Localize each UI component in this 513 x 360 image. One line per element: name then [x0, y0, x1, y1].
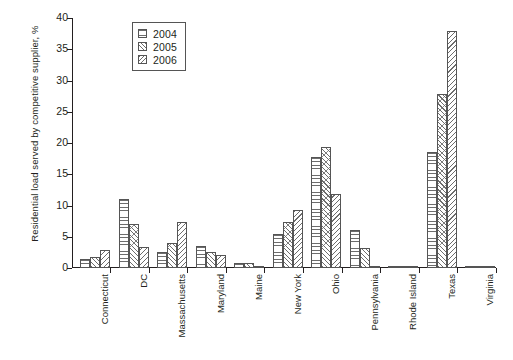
bar-2005 [244, 263, 254, 268]
x-label-ohio: Ohio [330, 274, 341, 294]
y-tick-label: 40 [56, 11, 68, 23]
bar-2004 [80, 259, 90, 268]
x-tick-mark [149, 268, 150, 273]
swatch-horizontal-lines-icon [138, 29, 147, 38]
y-axis-title: Residential load served by competitive s… [29, 0, 40, 274]
bar-2005 [475, 266, 485, 268]
y-tick-label: 15 [56, 167, 68, 179]
bar-group [234, 18, 264, 268]
bar-2004 [350, 230, 360, 268]
y-tick-label: 30 [56, 74, 68, 86]
bar-2004 [157, 252, 167, 268]
x-tick-mark [226, 268, 227, 273]
bar-2006 [177, 222, 187, 268]
bar-group [311, 18, 341, 268]
y-tick-label: 0 [62, 261, 68, 273]
legend-item-2004[interactable]: 2004 [138, 27, 177, 40]
bar-group [80, 18, 110, 268]
x-label-massachusetts: Massachusetts [176, 274, 187, 337]
x-label-virginia: Virginia [484, 274, 495, 306]
bar-group [388, 18, 418, 268]
swatch-diagonal-hatch-icon [138, 55, 147, 64]
legend-item-2005[interactable]: 2005 [138, 40, 177, 53]
x-tick-mark [342, 268, 343, 273]
legend-label: 2005 [153, 41, 177, 53]
bar-2004 [119, 199, 129, 268]
bar-2006 [100, 250, 110, 268]
legend-label: 2004 [153, 28, 177, 40]
bar-2004 [465, 266, 475, 268]
bar-2005 [167, 243, 177, 268]
bar-2005 [129, 224, 139, 268]
bar-2006 [408, 266, 418, 268]
bar-2004 [427, 152, 437, 268]
bar-group [427, 18, 457, 268]
bar-2005 [360, 248, 370, 268]
bar-2006 [331, 194, 341, 268]
x-label-connecticut: Connecticut [99, 274, 110, 324]
bar-2006 [485, 266, 495, 268]
x-tick-mark [457, 268, 458, 273]
bar-2006 [293, 210, 303, 268]
bar-2004 [311, 157, 321, 268]
bar-2005 [90, 257, 100, 268]
x-label-maine: Maine [253, 274, 264, 300]
bar-group [465, 18, 495, 268]
x-tick-mark [303, 268, 304, 273]
x-tick-mark [419, 268, 420, 273]
bar-2006 [447, 31, 457, 269]
bar-2005 [206, 252, 216, 268]
bar-group [196, 18, 226, 268]
x-label-maryland: Maryland [215, 274, 226, 313]
bar-group [273, 18, 303, 268]
bar-group [350, 18, 380, 268]
y-tick-label: 20 [56, 136, 68, 148]
x-label-dc: DC [138, 274, 149, 288]
y-axis-line [72, 18, 73, 268]
bar-2005 [437, 94, 447, 268]
swatch-cross-diagonal-hatch-icon [138, 42, 147, 51]
bar-2006 [139, 247, 149, 268]
bar-2006 [254, 266, 264, 268]
bar-2004 [388, 266, 398, 268]
bar-2006 [370, 266, 380, 268]
y-tick-label: 25 [56, 105, 68, 117]
x-tick-mark [496, 268, 497, 273]
chart-legend: 200420052006 [132, 22, 186, 71]
bar-2005 [398, 266, 408, 268]
bar-2004 [273, 234, 283, 268]
bar-2006 [216, 255, 226, 268]
x-tick-mark [187, 268, 188, 273]
legend-label: 2006 [153, 54, 177, 66]
x-label-texas: Texas [446, 274, 457, 299]
y-tick-label: 35 [56, 42, 68, 54]
y-tick-label: 10 [56, 199, 68, 211]
legend-item-2006[interactable]: 2006 [138, 53, 177, 66]
bar-2005 [321, 147, 331, 268]
bar-2004 [196, 246, 206, 268]
x-label-new-york: New York [292, 274, 303, 314]
y-tick-label: 5 [62, 230, 68, 242]
x-label-rhode-island: Rhode Island [407, 274, 418, 330]
bar-2005 [283, 222, 293, 268]
x-label-pennsylvania: Pennsylvania [369, 274, 380, 331]
x-tick-mark [380, 268, 381, 273]
bar-2004 [234, 263, 244, 268]
x-tick-mark [264, 268, 265, 273]
x-tick-mark [110, 268, 111, 273]
bar-chart: Residential load served by competitive s… [0, 0, 513, 360]
